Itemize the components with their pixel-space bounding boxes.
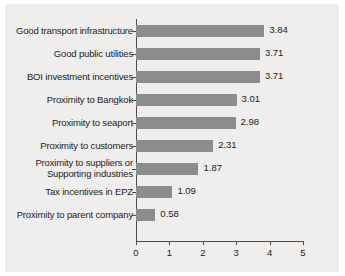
y-axis-tick (132, 77, 136, 78)
x-axis-tick (270, 241, 271, 245)
bar-value-label: 2.31 (218, 139, 237, 151)
bar-value-label: 3.71 (265, 47, 284, 59)
bar (136, 163, 198, 175)
bar-row: Proximity to customers2.31 (5, 135, 339, 158)
y-axis-tick (132, 123, 136, 124)
category-label: Proximity to seaport (5, 112, 133, 128)
y-axis-tick (132, 146, 136, 147)
x-axis-tick (203, 241, 204, 245)
bar (136, 117, 236, 129)
bar (136, 140, 213, 152)
category-label: Proximity to parent company (5, 204, 133, 220)
y-axis-tick (132, 192, 136, 193)
category-label: Proximity to customers (5, 135, 133, 151)
bar (136, 186, 172, 198)
x-axis-tick (169, 241, 170, 245)
x-axis-tick-label: 2 (193, 247, 213, 258)
category-label: Tax incentives in EPZ (5, 181, 133, 197)
bar-value-label: 1.09 (177, 185, 196, 197)
x-axis-tick-label: 0 (126, 247, 146, 258)
bar-row: Good public utilities3.71 (5, 43, 339, 66)
bar-value-label: 3.71 (265, 70, 284, 82)
bar-value-label: 1.87 (203, 162, 222, 174)
category-label: Good transport infrastructure (5, 20, 133, 36)
x-axis-tick-label: 3 (226, 247, 246, 258)
bar-row: Proximity to suppliers or Supporting ind… (5, 158, 339, 181)
x-axis-tick (303, 241, 304, 245)
y-axis-tick (132, 169, 136, 170)
bar-value-label: 3.84 (269, 24, 288, 36)
y-axis-tick (132, 215, 136, 216)
category-label: BOI investment incentives (5, 66, 133, 82)
bar-row: Good transport infrastructure3.84 (5, 20, 339, 43)
bar-value-label: 0.58 (160, 208, 179, 220)
bar-row: Tax incentives in EPZ1.09 (5, 181, 339, 204)
x-axis-line (136, 241, 303, 242)
bar (136, 48, 260, 60)
bar-row: BOI investment incentives3.71 (5, 66, 339, 89)
bar (136, 71, 260, 83)
category-label: Proximity to suppliers or Supporting ind… (5, 158, 133, 179)
x-axis-tick-label: 4 (260, 247, 280, 258)
y-axis-tick (132, 100, 136, 101)
category-label: Good public utilities (5, 43, 133, 59)
x-axis-tick-label: 1 (159, 247, 179, 258)
y-axis-tick (132, 54, 136, 55)
y-axis-tick (132, 31, 136, 32)
bar (136, 25, 264, 37)
chart-panel: Good transport infrastructure3.84Good pu… (5, 4, 339, 272)
bar-value-label: 2.98 (241, 116, 260, 128)
bar-row: Proximity to Bangkok3.01 (5, 89, 339, 112)
bar-row: Proximity to seaport2.98 (5, 112, 339, 135)
bar (136, 94, 237, 106)
category-label: Proximity to Bangkok (5, 89, 133, 105)
bar-row: Proximity to parent company0.58 (5, 204, 339, 227)
x-axis-tick (236, 241, 237, 245)
x-axis-tick-label: 5 (293, 247, 313, 258)
bar-value-label: 3.01 (242, 93, 261, 105)
bar-chart-plot-area: Good transport infrastructure3.84Good pu… (5, 4, 339, 272)
bar (136, 209, 155, 221)
x-axis-tick (136, 241, 137, 245)
